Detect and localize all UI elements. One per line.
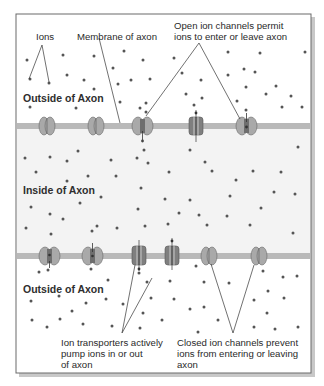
closed-channel-icon: [201, 247, 217, 265]
closed-channel-icon: [88, 117, 104, 135]
closed-channels-label-line3: axon: [177, 359, 198, 370]
ions-label: Ions: [36, 31, 54, 42]
outside-bottom-label: Outside of Axon: [23, 283, 104, 295]
outside-top-label: Outside of Axon: [23, 92, 104, 104]
open-channels-label-line1: Open ion channels permit: [174, 20, 283, 31]
inside-label: Inside of Axon: [23, 184, 95, 196]
transporters-label-line3: of axon: [61, 359, 92, 370]
membrane-label: Membrane of axon: [77, 31, 157, 42]
closed-channels-label-line2: ions from entering or leaving: [177, 348, 298, 359]
open-channels-label-line2: ions to enter or leave axon: [174, 31, 287, 42]
transporters-label-line2: pump ions in or out: [61, 348, 143, 359]
transporters-label-line1: Ion transporters actively: [61, 337, 163, 348]
closed-channel-icon: [251, 247, 267, 265]
closed-channel-icon: [39, 117, 55, 135]
top-membrane: [17, 123, 310, 129]
axon-membrane-diagram: Ions Membrane of axon Open ion channels …: [0, 0, 324, 386]
closed-channels-label-line1: Closed ion channels prevent: [177, 337, 298, 348]
